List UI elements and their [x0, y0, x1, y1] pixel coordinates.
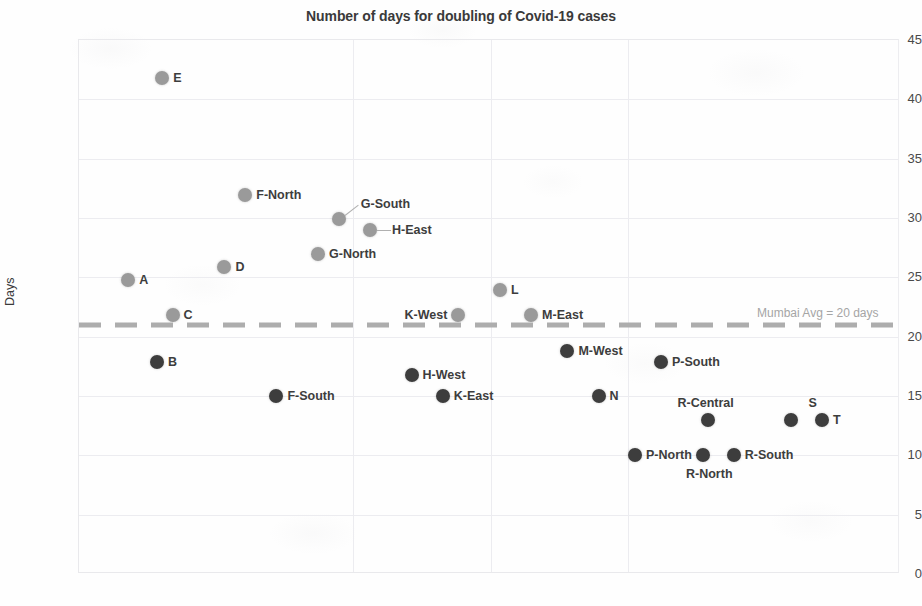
data-point-label-g-south: G-South	[361, 197, 410, 211]
data-point-m-west[interactable]	[560, 344, 574, 358]
data-point-label-r-north: R-North	[686, 467, 733, 481]
plot-area: EF-NorthG-SouthH-EastG-NorthDALCK-WestM-…	[78, 39, 899, 573]
data-point-r-central[interactable]	[701, 413, 715, 427]
data-point-label-k-west: K-West	[404, 308, 447, 322]
data-point-label-m-east: M-East	[542, 308, 583, 322]
gridline-vertical	[491, 40, 492, 572]
data-point-label-a: A	[139, 273, 148, 287]
data-point-r-north[interactable]	[696, 448, 710, 462]
data-point-label-f-south: F-South	[287, 389, 334, 403]
data-point-d[interactable]	[217, 260, 231, 274]
data-point-c[interactable]	[166, 308, 180, 322]
gridline-horizontal	[79, 515, 898, 516]
data-point-p-south[interactable]	[654, 355, 668, 369]
data-point-label-n: N	[610, 389, 619, 403]
data-point-label-b: B	[168, 355, 177, 369]
gridline-horizontal	[79, 218, 898, 219]
data-point-label-r-central: R-Central	[677, 396, 733, 410]
data-point-label-p-south: P-South	[672, 355, 720, 369]
data-point-e[interactable]	[155, 71, 169, 85]
gridline-horizontal	[79, 99, 898, 100]
data-point-h-west[interactable]	[405, 368, 419, 382]
mumbai-average-label: Mumbai Avg = 20 days	[757, 306, 879, 320]
data-point-label-f-north: F-North	[256, 188, 301, 202]
data-point-m-east[interactable]	[524, 308, 538, 322]
data-point-g-north[interactable]	[311, 247, 325, 261]
data-point-k-east[interactable]	[436, 389, 450, 403]
data-point-f-south[interactable]	[269, 389, 283, 403]
data-point-label-e: E	[173, 71, 181, 85]
gridline-horizontal	[79, 159, 898, 160]
data-point-p-north[interactable]	[628, 448, 642, 462]
chart-page: Number of days for doubling of Covid-19 …	[0, 0, 922, 606]
data-point-label-g-north: G-North	[329, 247, 376, 261]
data-point-label-m-west: M-West	[578, 344, 622, 358]
gridline-horizontal	[79, 337, 898, 338]
data-point-label-s: S	[809, 396, 817, 410]
gridline-horizontal	[79, 277, 898, 278]
gridline-vertical	[353, 40, 354, 572]
data-point-f-north[interactable]	[238, 188, 252, 202]
mumbai-average-reference-line	[79, 322, 898, 327]
data-point-label-k-east: K-East	[454, 389, 494, 403]
leader-line-g-south	[344, 205, 358, 216]
leader-line-h-east	[377, 230, 391, 231]
data-point-r-south[interactable]	[727, 448, 741, 462]
data-point-t[interactable]	[815, 413, 829, 427]
data-point-label-r-south: R-South	[745, 448, 794, 462]
gridline-vertical	[628, 40, 629, 572]
y-axis-title: Days	[3, 278, 17, 306]
data-point-n[interactable]	[592, 389, 606, 403]
data-point-label-p-north: P-North	[646, 448, 692, 462]
data-point-a[interactable]	[121, 273, 135, 287]
data-point-label-h-east: H-East	[392, 223, 432, 237]
data-point-b[interactable]	[150, 355, 164, 369]
data-point-k-west[interactable]	[451, 308, 465, 322]
data-point-label-t: T	[833, 413, 841, 427]
data-point-h-east[interactable]	[363, 223, 377, 237]
data-point-label-h-west: H-West	[423, 368, 466, 382]
data-point-s[interactable]	[784, 413, 798, 427]
chart-title: Number of days for doubling of Covid-19 …	[0, 8, 922, 24]
data-point-l[interactable]	[493, 283, 507, 297]
data-point-label-l: L	[511, 283, 519, 297]
data-point-label-c: C	[184, 308, 193, 322]
data-point-label-d: D	[235, 260, 244, 274]
